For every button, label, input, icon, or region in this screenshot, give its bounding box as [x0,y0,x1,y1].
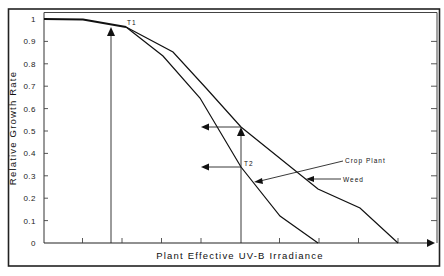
svg-text:0: 0 [31,239,36,248]
crop-readoff-arrow-icon [201,164,209,171]
y-tick-labels: 0 0.1 0.2 0.3 0.4 0.5 0.6 0.7 0.8 0.9 1 [23,15,36,248]
weed-leader-arrow-icon [306,176,314,182]
y-ticks-left [44,41,48,220]
svg-text:0.5: 0.5 [23,127,36,136]
svg-text:0.1: 0.1 [23,217,36,226]
svg-text:0.2: 0.2 [23,194,36,203]
weed-curve [126,27,398,243]
crop-plant-leader-arrow-icon [254,178,263,184]
svg-text:0.4: 0.4 [23,149,36,158]
x-axis-arrow-icon [427,239,435,247]
shared-plateau-line [44,19,126,27]
t1-label: T1 [127,19,137,26]
svg-text:1: 1 [31,15,36,24]
weed-readoff-arrow-icon [201,124,209,131]
x-axis-title: Plant Effective UV-B Irradiance [156,250,323,261]
svg-text:0.6: 0.6 [23,105,36,114]
svg-text:0.3: 0.3 [23,172,36,181]
svg-text:0.9: 0.9 [23,37,36,46]
t2-label: T2 [244,160,254,167]
t2-arrow-icon [237,127,245,136]
y-ticks-right [431,41,437,220]
t1-arrow-icon [107,27,115,36]
svg-text:0.7: 0.7 [23,82,36,91]
growth-rate-chart: 0 0.1 0.2 0.3 0.4 0.5 0.6 0.7 0.8 0.9 1 … [0,0,444,276]
weed-label: Weed [343,176,364,183]
crop-plant-label: Crop Plant [345,157,386,165]
x-ticks [83,238,399,243]
svg-text:0.8: 0.8 [23,60,36,69]
crop-plant-curve [126,27,318,243]
crop-plant-leader-line [260,161,343,181]
y-axis-title: Relative Growth Rate [7,71,18,185]
